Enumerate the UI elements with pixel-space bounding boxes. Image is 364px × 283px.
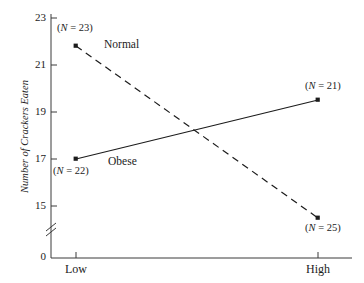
y-axis-title: Number of Crackers Eaten	[19, 62, 30, 212]
annotation-n-normal-low: (N = 23)	[57, 22, 93, 33]
n-symbol: N	[309, 222, 316, 233]
series-line-normal	[76, 46, 318, 218]
x-tick-label-low: Low	[52, 262, 100, 277]
series-label-normal: Normal	[104, 38, 139, 50]
annotation-n-obese-low: (N = 22)	[53, 165, 89, 176]
n-value: = 21)	[316, 80, 341, 91]
data-point-normal-high	[316, 216, 320, 220]
annotation-n-obese-high: (N = 21)	[305, 80, 341, 91]
y-tick-label-0: 0	[20, 250, 46, 262]
n-value: = 22)	[64, 165, 89, 176]
y-tick-label-23: 23	[20, 11, 46, 23]
data-point-obese-low	[74, 157, 78, 161]
chart-plot-area	[0, 0, 364, 283]
data-point-normal-low	[74, 44, 78, 48]
data-point-obese-high	[316, 98, 320, 102]
x-tick-label-high: High	[294, 262, 342, 277]
annotation-n-normal-high: (N = 25)	[305, 222, 341, 233]
series-label-obese: Obese	[108, 155, 137, 167]
n-symbol: N	[61, 22, 68, 33]
series-line-obese	[76, 100, 318, 159]
n-value: = 23)	[68, 22, 93, 33]
n-symbol: N	[57, 165, 64, 176]
chart-figure: 23 21 19 17 15 0 Low High Number of Crac…	[0, 0, 364, 283]
n-symbol: N	[309, 80, 316, 91]
n-value: = 25)	[316, 222, 341, 233]
